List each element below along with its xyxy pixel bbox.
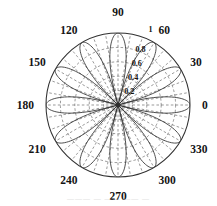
angle-tick-label-0: 0 [202,99,208,111]
angle-tick-label-30: 30 [190,56,202,68]
angle-tick-label-180: 180 [17,99,35,111]
angle-tick-label-240: 240 [60,174,78,186]
radial-tick-label-1: 1 [149,25,153,34]
angle-tick-label-300: 300 [159,174,177,186]
polar-chart-canvas: 0306090120150180210240270300330 0.20.40.… [0,0,217,206]
angle-tick-label-120: 120 [60,24,78,36]
caption-ghost-text: ——— — —— —— — [0,195,217,203]
angle-tick-label-90: 90 [112,6,124,18]
radial-tick-label-0-2: 0.2 [124,87,134,96]
angle-tick-label-330: 330 [190,143,208,155]
radial-tick-label-0-4: 0.4 [128,73,138,82]
polar-plot-figure: 0306090120150180210240270300330 0.20.40.… [0,0,217,206]
angle-tick-label-150: 150 [28,56,46,68]
radial-tick-label-0-8: 0.8 [135,45,145,54]
angle-tick-label-210: 210 [28,143,46,155]
radial-tick-label-0-6: 0.6 [132,59,142,68]
angle-tick-label-60: 60 [159,24,171,36]
